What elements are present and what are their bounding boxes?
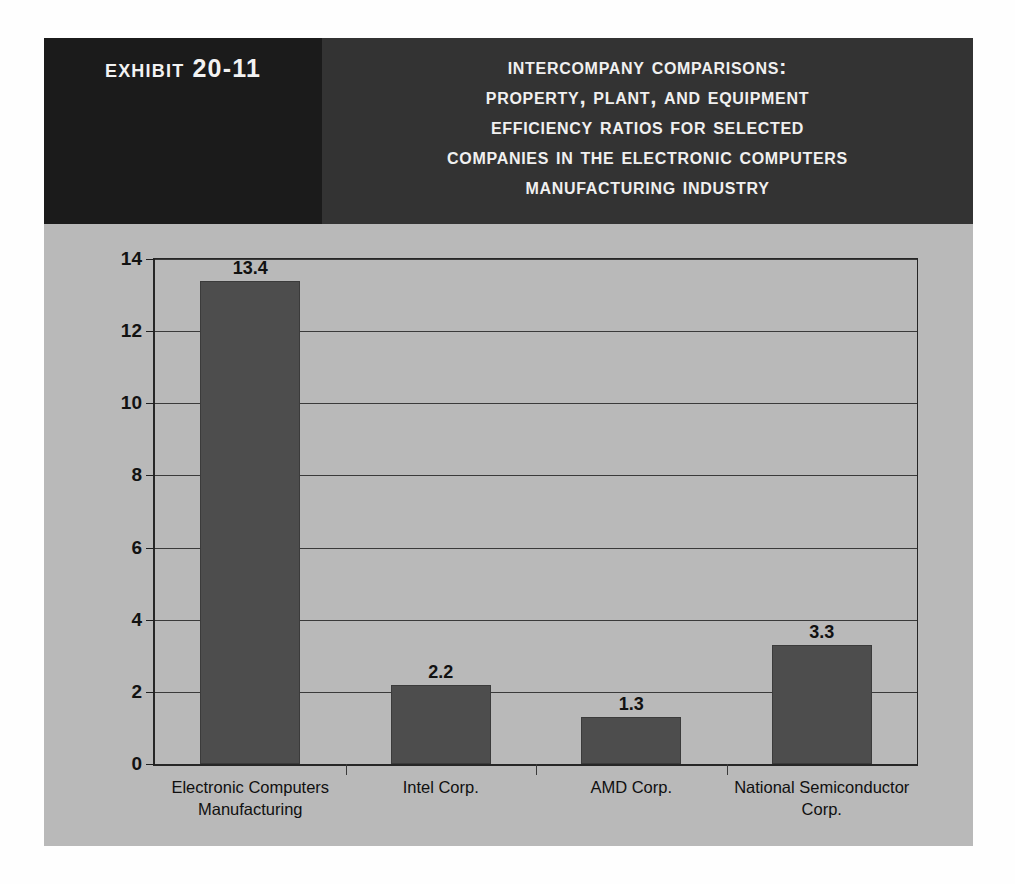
bar: 1.3 xyxy=(581,717,681,764)
y-tick-label: 14 xyxy=(121,248,142,270)
y-tick-mark xyxy=(146,692,155,693)
bar: 3.3 xyxy=(772,645,872,764)
title-line-5: Manufacturing Industry xyxy=(525,172,769,202)
y-tick-mark xyxy=(146,259,155,260)
x-category-label-line: National Semiconductor xyxy=(717,776,927,798)
x-category-label: AMD Corp. xyxy=(526,776,736,798)
exhibit-header-band: Exhibit 20-11 Intercompany Comparisons: … xyxy=(44,38,973,224)
y-tick-label: 4 xyxy=(131,609,142,631)
y-tick-mark xyxy=(146,475,155,476)
x-category-label: National SemiconductorCorp. xyxy=(717,776,927,820)
y-tick-label: 8 xyxy=(131,464,142,486)
title-line-2: Property, Plant, and Equipment xyxy=(486,82,809,112)
bar-value-label: 13.4 xyxy=(233,258,268,279)
exhibit-figure: Exhibit 20-11 Intercompany Comparisons: … xyxy=(44,38,973,846)
x-category-label-line: Corp. xyxy=(717,798,927,820)
exhibit-title-block: Intercompany Comparisons: Property, Plan… xyxy=(322,38,973,224)
bar: 2.2 xyxy=(391,685,491,764)
title-line-1: Intercompany Comparisons: xyxy=(508,52,788,82)
gridline xyxy=(155,259,917,260)
x-tick-mark xyxy=(727,764,728,775)
x-tick-mark xyxy=(346,764,347,775)
exhibit-number-label: Exhibit 20-11 xyxy=(105,54,261,83)
bar-value-label: 1.3 xyxy=(619,694,644,715)
bar-value-label: 2.2 xyxy=(428,662,453,683)
y-tick-mark xyxy=(146,764,155,765)
page-canvas: Exhibit 20-11 Intercompany Comparisons: … xyxy=(0,0,1015,884)
x-category-label-line: Intel Corp. xyxy=(336,776,546,798)
y-tick-label: 6 xyxy=(131,537,142,559)
title-line-3: Efficiency Ratios for Selected xyxy=(491,112,804,142)
y-tick-label: 12 xyxy=(121,320,142,342)
y-tick-mark xyxy=(146,548,155,549)
x-category-label-line: AMD Corp. xyxy=(526,776,736,798)
y-tick-label: 0 xyxy=(131,753,142,775)
y-tick-mark xyxy=(146,403,155,404)
chart-body: 02468101214 Electronic ComputersManufact… xyxy=(44,224,973,846)
x-category-label-line: Manufacturing xyxy=(145,798,355,820)
y-tick-label: 2 xyxy=(131,681,142,703)
x-category-label: Electronic ComputersManufacturing xyxy=(145,776,355,820)
exhibit-label-block: Exhibit 20-11 xyxy=(44,38,322,224)
y-tick-mark xyxy=(146,331,155,332)
y-tick-mark xyxy=(146,620,155,621)
x-tick-mark xyxy=(536,764,537,775)
x-category-label-line: Electronic Computers xyxy=(145,776,355,798)
title-line-4: Companies in the Electronic Computers xyxy=(447,142,848,172)
x-category-label: Intel Corp. xyxy=(336,776,546,798)
bar-value-label: 3.3 xyxy=(809,622,834,643)
bar-chart-plot-area: 02468101214 Electronic ComputersManufact… xyxy=(153,258,918,766)
bar: 13.4 xyxy=(200,281,300,764)
y-tick-label: 10 xyxy=(121,392,142,414)
